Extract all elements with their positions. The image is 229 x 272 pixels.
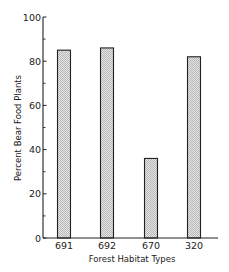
y-tick-label-40: 40: [29, 144, 41, 155]
y-tick-label-0: 0: [35, 233, 41, 244]
bar-670: [145, 158, 158, 238]
x-tick-label-320: 320: [185, 240, 203, 251]
x-tick-label-691: 691: [55, 240, 73, 251]
y-tick-label-20: 20: [29, 188, 41, 199]
bar-chart: 691692670320020406080100 Percent Bear Fo…: [0, 0, 229, 272]
y-tick-label-80: 80: [29, 56, 41, 67]
x-tick-label-692: 692: [98, 240, 116, 251]
y-tick-label-60: 60: [29, 100, 41, 111]
x-axis-title: Forest Habitat Types: [89, 254, 176, 264]
bar-320: [188, 57, 201, 238]
y-axis-title: Percent Bear Food Plants: [13, 74, 23, 181]
bar-692: [101, 48, 114, 238]
y-tick-label-100: 100: [23, 12, 41, 23]
bar-691: [58, 50, 71, 238]
bars-group: [58, 48, 201, 238]
x-tick-label-670: 670: [142, 240, 160, 251]
